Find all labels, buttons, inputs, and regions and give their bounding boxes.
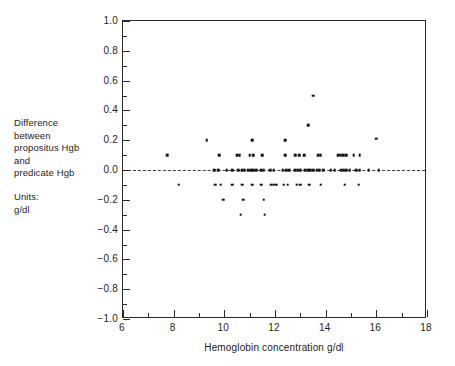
x-axis-tick-label: 18: [411, 322, 441, 333]
data-point: [238, 154, 241, 157]
data-point: [243, 169, 246, 172]
data-point: [269, 169, 272, 172]
x-axis-tick: [224, 310, 225, 317]
data-point: [261, 154, 264, 157]
data-point: [295, 184, 298, 187]
y-axis-minor-tick: [123, 185, 127, 186]
data-point: [214, 184, 217, 187]
data-point: [378, 169, 381, 172]
x-axis-tick-label: 14: [310, 322, 340, 333]
data-point: [237, 169, 240, 172]
y-axis-tick-label: −0.8: [78, 283, 118, 294]
data-point: [217, 169, 220, 172]
y-axis-tick: [123, 170, 130, 171]
data-point: [298, 154, 301, 157]
data-point: [219, 184, 222, 187]
data-point: [213, 169, 216, 172]
data-point: [281, 169, 284, 172]
data-point: [231, 184, 234, 187]
y-axis-tick: [123, 289, 130, 290]
y-axis-minor-tick: [123, 215, 127, 216]
x-axis-minor-tick: [250, 313, 251, 317]
data-point: [218, 154, 221, 157]
y-axis-minor-tick: [123, 245, 127, 246]
data-point: [318, 169, 321, 172]
x-axis-tick-label: 6: [107, 322, 137, 333]
annotation-line: Difference: [14, 117, 118, 130]
x-axis-tick-label: 12: [259, 322, 289, 333]
x-axis-tick-label: 8: [158, 322, 188, 333]
data-point: [359, 169, 362, 172]
x-axis-minor-tick: [402, 313, 403, 317]
x-axis-minor-tick: [300, 313, 301, 317]
y-axis-tick-label: 0.6: [78, 74, 118, 85]
y-axis-tick: [123, 81, 130, 82]
data-point: [262, 199, 265, 202]
x-axis-tick-label: 10: [208, 322, 238, 333]
x-axis-minor-tick: [351, 313, 352, 317]
data-point: [231, 169, 234, 172]
data-point: [222, 199, 225, 202]
data-point: [284, 154, 287, 157]
x-axis-title: Hemoglobin concentration g/dl: [122, 342, 426, 353]
y-axis-tick: [123, 51, 130, 52]
y-axis-tick-label: −0.6: [78, 253, 118, 264]
data-point: [308, 184, 311, 187]
data-point: [284, 139, 287, 142]
x-axis-tick: [376, 310, 377, 317]
data-point: [352, 154, 355, 157]
data-point: [375, 137, 378, 140]
data-point: [242, 199, 245, 202]
y-axis-tick-label: 0.2: [78, 134, 118, 145]
y-axis-tick: [123, 319, 130, 320]
y-axis-tick-label: 0.0: [78, 164, 118, 175]
x-axis-minor-tick: [148, 313, 149, 317]
y-axis-minor-tick: [123, 125, 127, 126]
data-point: [255, 169, 258, 172]
y-axis-tick-label: −0.4: [78, 223, 118, 234]
x-axis-tick: [123, 310, 124, 317]
data-point: [275, 184, 278, 187]
y-axis-minor-tick: [123, 304, 127, 305]
data-point: [348, 169, 351, 172]
data-point: [319, 154, 322, 157]
data-point: [322, 169, 325, 172]
y-axis-tick-label: 1.0: [78, 15, 118, 26]
data-point: [312, 94, 315, 97]
data-point: [251, 139, 254, 142]
y-axis-tick: [123, 230, 130, 231]
data-point: [240, 213, 243, 216]
data-point: [272, 169, 275, 172]
y-axis-minor-tick: [123, 66, 127, 67]
y-axis-minor-tick: [123, 274, 127, 275]
scatter-plot-figure: Difference between propositus Hgb and pr…: [0, 0, 455, 366]
y-axis-tick-label: 0.8: [78, 44, 118, 55]
data-point: [264, 213, 267, 216]
data-point: [177, 184, 180, 187]
data-point: [345, 169, 348, 172]
units-line: g/dl: [14, 204, 118, 217]
data-point: [343, 184, 346, 187]
y-axis-tick: [123, 140, 130, 141]
y-axis-tick: [123, 200, 130, 201]
x-axis-tick: [174, 310, 175, 317]
y-axis-minor-tick: [123, 96, 127, 97]
plot-area: [122, 20, 426, 318]
y-axis-tick: [123, 110, 130, 111]
x-axis-tick: [427, 310, 428, 317]
data-point: [307, 124, 310, 127]
x-axis-tick-label: 16: [360, 322, 390, 333]
data-point: [288, 169, 291, 172]
data-point: [241, 184, 244, 187]
data-point: [303, 154, 306, 157]
data-point: [299, 184, 302, 187]
data-point: [333, 169, 336, 172]
y-axis-tick: [123, 259, 130, 260]
data-point: [359, 154, 362, 157]
x-axis-tick: [326, 310, 327, 317]
data-point: [355, 169, 358, 172]
data-point: [286, 184, 289, 187]
data-point: [319, 184, 322, 187]
data-point: [260, 184, 263, 187]
data-point: [367, 169, 370, 172]
